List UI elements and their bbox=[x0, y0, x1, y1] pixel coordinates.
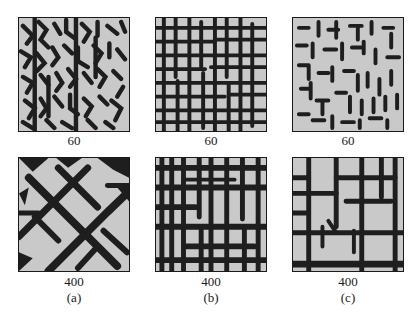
panel-label-a-60: 60 bbox=[18, 134, 130, 148]
panel-label-b-60: 60 bbox=[155, 134, 267, 148]
texture-panel-b-400 bbox=[155, 157, 267, 272]
subfigure-label-b: (b) bbox=[155, 291, 267, 305]
panel-label-a-400: 400 bbox=[18, 275, 130, 289]
texture-panel-a-60 bbox=[18, 17, 130, 132]
panel-label-c-60: 60 bbox=[292, 134, 404, 148]
texture-a-400-graphic bbox=[19, 158, 129, 271]
texture-b-60-graphic bbox=[156, 18, 266, 131]
texture-panel-c-400 bbox=[292, 157, 404, 272]
texture-panel-a-400 bbox=[18, 157, 130, 272]
texture-panel-c-60 bbox=[292, 17, 404, 132]
texture-c-60-graphic bbox=[293, 18, 403, 131]
subfigure-label-c: (c) bbox=[292, 291, 404, 305]
texture-b-400-graphic bbox=[156, 158, 266, 271]
panel-label-c-400: 400 bbox=[292, 275, 404, 289]
texture-a-60-graphic bbox=[19, 18, 129, 131]
panel-label-b-400: 400 bbox=[155, 275, 267, 289]
texture-panel-b-60 bbox=[155, 17, 267, 132]
texture-c-400-graphic bbox=[293, 158, 403, 271]
subfigure-label-a: (a) bbox=[18, 291, 130, 305]
